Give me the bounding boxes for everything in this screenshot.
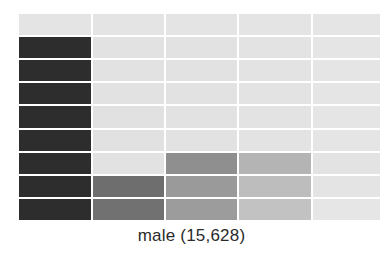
heatmap-cell-r4c4[interactable] (239, 83, 311, 104)
heatmap-cell-r8c3[interactable] (166, 176, 237, 197)
heatmap-cell-r1c1[interactable] (19, 14, 91, 35)
heatmap-cell-r6c5[interactable] (313, 130, 380, 151)
heatmap-cell-r2c4[interactable] (239, 37, 311, 58)
heatmap-cell-r5c3[interactable] (166, 106, 237, 127)
heatmap-cell-r1c3[interactable] (166, 14, 237, 35)
heatmap-cell-r8c5[interactable] (313, 176, 380, 197)
heatmap-cell-r8c1[interactable] (19, 176, 91, 197)
heatmap-cell-r4c5[interactable] (313, 83, 380, 104)
heatmap-cell-r2c2[interactable] (93, 37, 164, 58)
heatmap-cell-r9c3[interactable] (166, 199, 237, 220)
heatmap-cell-r2c5[interactable] (313, 37, 380, 58)
heatmap-cell-r4c1[interactable] (19, 83, 91, 104)
heatmap-cell-r1c4[interactable] (239, 14, 311, 35)
heatmap-cell-r8c2[interactable] (93, 176, 164, 197)
heatmap-cell-r3c4[interactable] (239, 60, 311, 81)
heatmap-cell-r9c1[interactable] (19, 199, 91, 220)
heatmap-cell-r9c5[interactable] (313, 199, 380, 220)
heatmap-cell-r6c2[interactable] (93, 130, 164, 151)
heatmap-cell-r7c1[interactable] (19, 153, 91, 174)
heatmap-cell-r8c4[interactable] (239, 176, 311, 197)
heatmap-cell-r5c2[interactable] (93, 106, 164, 127)
heatmap-cell-r7c2[interactable] (93, 153, 164, 174)
heatmap-cell-r1c2[interactable] (93, 14, 164, 35)
heatmap-cell-r5c1[interactable] (19, 106, 91, 127)
heatmap-cell-r6c3[interactable] (166, 130, 237, 151)
heatmap-cell-r5c4[interactable] (239, 106, 311, 127)
heatmap-cell-r6c1[interactable] (19, 130, 91, 151)
figure-caption: male (15,628) (0, 226, 383, 246)
heatmap-cell-r3c3[interactable] (166, 60, 237, 81)
heatmap-cell-r2c3[interactable] (166, 37, 237, 58)
heatmap-cell-r4c3[interactable] (166, 83, 237, 104)
heatmap-cell-r6c4[interactable] (239, 130, 311, 151)
heatmap-cell-r3c5[interactable] (313, 60, 380, 81)
heatmap-cell-r9c4[interactable] (239, 199, 311, 220)
heatmap-cell-r5c5[interactable] (313, 106, 380, 127)
heatmap-cell-r7c3[interactable] (166, 153, 237, 174)
heatmap-cell-r3c1[interactable] (19, 60, 91, 81)
heatmap-cell-r7c5[interactable] (313, 153, 380, 174)
heatmap-cell-r4c2[interactable] (93, 83, 164, 104)
heatmap-cell-r9c2[interactable] (93, 199, 164, 220)
heatmap-grid (19, 14, 372, 220)
heatmap-cell-r3c2[interactable] (93, 60, 164, 81)
heatmap-cell-r2c1[interactable] (19, 37, 91, 58)
heatmap-cell-r1c5[interactable] (313, 14, 380, 35)
heatmap-figure: male (15,628) (0, 0, 383, 260)
heatmap-cell-r7c4[interactable] (239, 153, 311, 174)
